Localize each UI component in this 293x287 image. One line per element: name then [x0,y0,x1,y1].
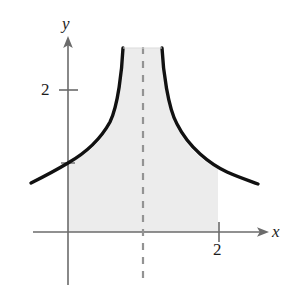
x-tick-label-2: 2 [213,240,222,260]
y-tick-label-2: 2 [41,80,50,100]
y-axis-label: y [62,14,70,34]
x-axis-label: x [272,222,280,242]
function-graph-figure [0,0,293,287]
